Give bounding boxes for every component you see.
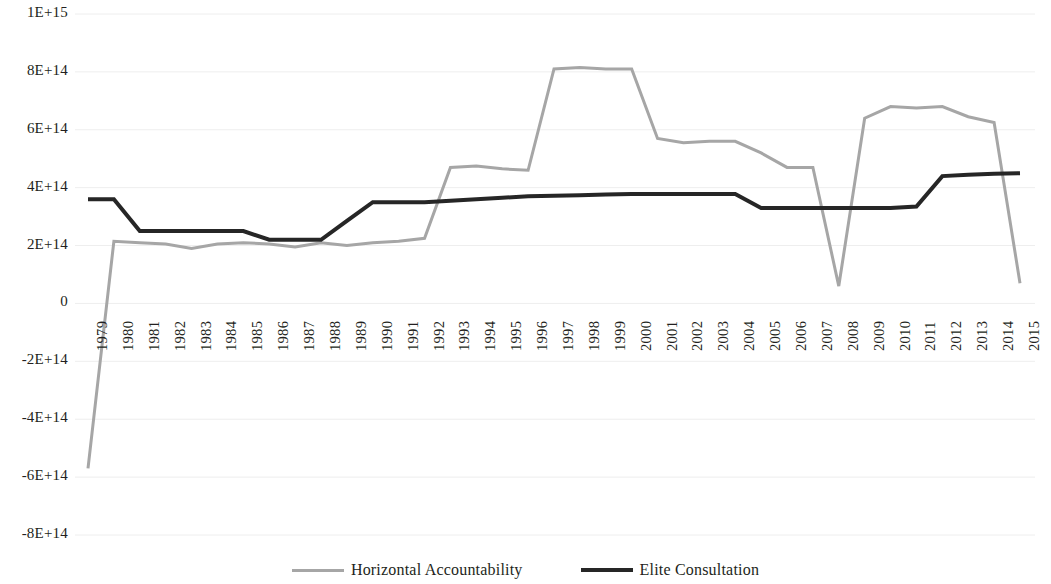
dark-line-swatch: [581, 568, 633, 572]
chart-container: 1E+158E+146E+144E+142E+140-2E+14-4E+14-6…: [0, 0, 1051, 584]
data-series-layer: [88, 68, 1020, 469]
gray-line-swatch: [292, 569, 344, 572]
chart-legend: Horizontal Accountability Elite Consulta…: [0, 556, 1051, 584]
gridlines: [75, 14, 1035, 535]
legend-item-elite-consultation[interactable]: Elite Consultation: [581, 561, 760, 579]
plot-area: [0, 0, 1051, 584]
series-line: [88, 68, 1020, 469]
legend-label: Horizontal Accountability: [351, 561, 523, 579]
legend-label: Elite Consultation: [640, 561, 760, 579]
series-line: [88, 173, 1020, 240]
legend-item-horizontal-accountability[interactable]: Horizontal Accountability: [292, 561, 523, 579]
